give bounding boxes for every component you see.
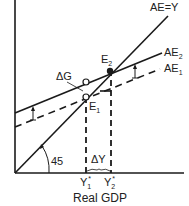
ae2-label: AE2: [164, 46, 183, 60]
y1-tick-label: Y1*: [80, 175, 91, 190]
ae-equals-y-line: [15, 16, 168, 173]
ae1-label: AE1: [164, 62, 183, 76]
angle-label: 45: [51, 155, 63, 167]
angle-arc-icon: [42, 146, 49, 173]
delta-g-label: ΔG: [56, 70, 72, 82]
e1-label: E1: [89, 100, 100, 114]
ae-equals-y-label: AE=Y: [150, 1, 179, 13]
shift-arrow-right-icon: [132, 64, 138, 78]
keynesian-cross-diagram: AE=Y AE2 AE1 E2 E1 ΔG 45 ΔY Y1* Y2* Real…: [0, 0, 189, 206]
x-axis-title: Real GDP: [73, 191, 127, 205]
e2-label: E2: [101, 53, 112, 67]
shift-arrow-left-icon: [30, 106, 36, 120]
delta-y-brace: [87, 169, 110, 171]
e2-point: [107, 68, 113, 74]
delta-y-label: ΔY: [91, 153, 106, 165]
delta-g-point: [83, 79, 89, 85]
y2-tick-label: Y2*: [104, 175, 115, 190]
